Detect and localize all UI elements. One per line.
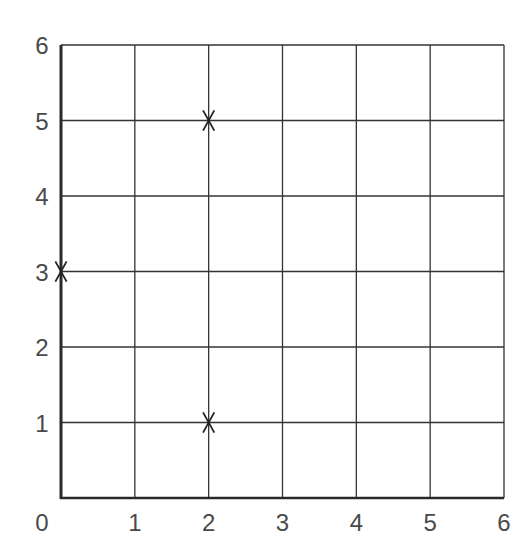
y-tick-label-5: 5: [35, 108, 48, 135]
x-tick-label-2: 2: [202, 509, 215, 536]
x-tick-label-1: 1: [128, 509, 141, 536]
y-tick-label-2: 2: [35, 334, 48, 361]
y-tick-label-6: 6: [35, 32, 48, 59]
y-tick-label-4: 4: [35, 183, 48, 210]
x-axis-tick-labels: 0123456: [35, 509, 510, 536]
x-tick-label-3: 3: [276, 509, 289, 536]
y-axis-tick-labels: 123456: [35, 32, 48, 437]
grid-lines: [61, 45, 504, 498]
x-tick-label-6: 6: [497, 509, 510, 536]
y-tick-label-3: 3: [35, 259, 48, 286]
x-tick-label-5: 5: [423, 509, 436, 536]
x-tick-label-0: 0: [35, 509, 48, 536]
y-tick-label-1: 1: [35, 410, 48, 437]
x-tick-label-4: 4: [350, 509, 363, 536]
coordinate-grid-chart: 0123456 123456: [0, 0, 532, 552]
